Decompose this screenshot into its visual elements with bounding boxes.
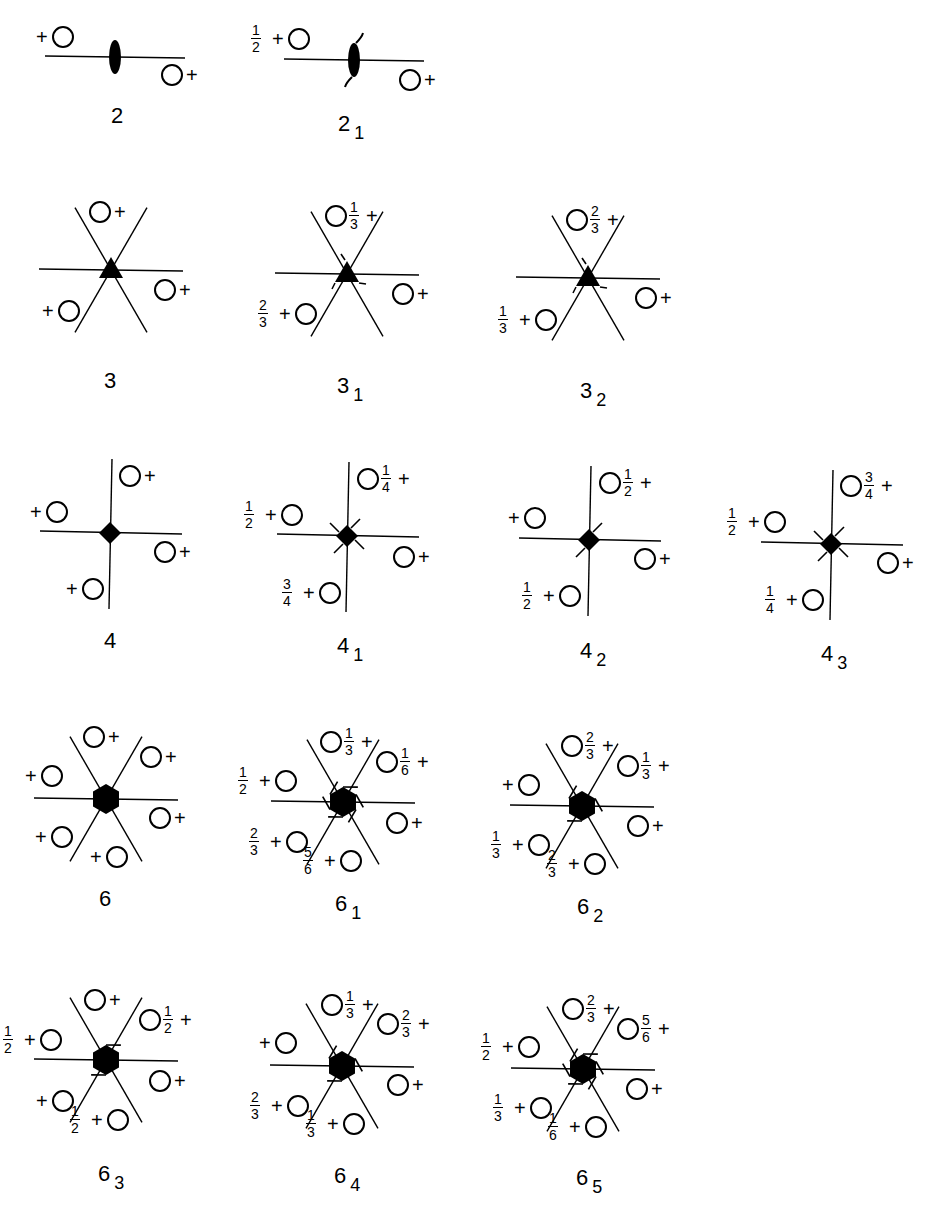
axis-label-p31: 31 [337,375,363,397]
plus-sign: + [108,727,120,747]
position-circle [841,476,861,496]
plus-sign: + [361,732,373,752]
height-fraction: 23 [249,826,259,857]
panel-p32 [516,210,660,340]
height-fraction: 12 [481,1031,491,1062]
position-circle [59,301,79,321]
axis-label-p42: 42 [580,640,606,662]
position-circle [326,206,346,226]
plus-sign: + [25,766,37,786]
height-fraction: 16 [548,1111,558,1142]
position-circle [388,1075,408,1095]
plus-sign: + [640,473,652,493]
axis-symbol-3-icon [99,257,123,278]
plus-sign: + [902,553,914,573]
position-circle [150,808,170,828]
height-fraction: 16 [400,746,410,777]
plus-sign: + [66,579,78,599]
position-circle [387,813,407,833]
plus-sign: + [259,771,271,791]
plus-sign: + [91,1110,103,1130]
position-circle [155,280,175,300]
position-circle [536,310,556,330]
position-circle [562,736,582,756]
plus-sign: + [881,476,893,496]
height-fraction: 13 [306,1108,316,1139]
panel-p4 [40,459,182,609]
position-circle [618,756,638,776]
plus-sign: + [366,206,378,226]
position-circle [394,547,414,567]
height-fraction: 13 [344,726,354,757]
position-circle [400,70,420,90]
height-fraction: 13 [491,829,501,860]
position-circle [358,469,378,489]
plus-sign: + [90,847,102,867]
position-circle [296,304,316,324]
plus-sign: + [36,1091,48,1111]
plus-sign: + [512,835,524,855]
height-fraction: 23 [547,848,557,879]
position-circle [529,835,549,855]
position-circle [120,466,140,486]
height-fraction: 14 [381,463,391,494]
position-circle [288,1096,308,1116]
position-circle [141,747,161,767]
height-fraction: 12 [163,1004,173,1035]
plus-sign: + [568,854,580,874]
axis-symbol-3-screw-icon [332,254,366,289]
plus-sign: + [607,210,619,230]
plus-sign: + [418,547,430,567]
plus-sign: + [659,549,671,569]
position-circle [53,27,73,47]
height-fraction: 23 [586,993,596,1024]
plus-sign: + [174,808,186,828]
height-fraction: 13 [345,989,355,1020]
height-fraction: 12 [251,23,261,54]
position-circle [560,586,580,606]
plus-sign: + [279,304,291,324]
plus-sign: + [272,29,284,49]
position-circle [108,1110,128,1130]
position-circle [636,288,656,308]
plus-sign: + [36,27,48,47]
plus-sign: + [748,512,760,532]
position-circle [600,473,620,493]
position-circle [47,502,67,522]
position-circle [85,990,105,1010]
plus-sign: + [144,466,156,486]
position-circle [378,1014,398,1034]
height-fraction: 34 [864,470,874,501]
position-circle [393,284,413,304]
panel-p3 [39,202,183,332]
height-fraction: 23 [250,1090,260,1121]
position-circle [344,1114,364,1134]
plus-sign: + [179,542,191,562]
position-circle [276,771,296,791]
axis-label-p41: 41 [337,635,363,657]
plus-sign: + [412,1075,424,1095]
position-circle [519,1037,539,1057]
position-circle [83,579,103,599]
plus-sign: + [519,310,531,330]
plus-sign: + [658,756,670,776]
position-circle [563,999,583,1019]
position-circle [322,995,342,1015]
plus-sign: + [508,508,520,528]
plus-sign: + [543,586,555,606]
plus-sign: + [786,590,798,610]
position-circle [155,542,175,562]
position-circle [282,505,302,525]
plus-sign: + [602,736,614,756]
height-fraction: 56 [303,845,313,876]
height-fraction: 13 [349,200,359,231]
height-fraction: 13 [493,1092,503,1123]
axis-label-p65: 65 [576,1167,602,1189]
axis-label-p2: 2 [111,105,123,127]
position-circle [140,1010,160,1030]
height-fraction: 14 [765,584,775,615]
symmetry-diagram-canvas [0,0,939,1207]
plus-sign: + [114,202,126,222]
position-circle [567,210,587,230]
plus-sign: + [180,1010,192,1030]
